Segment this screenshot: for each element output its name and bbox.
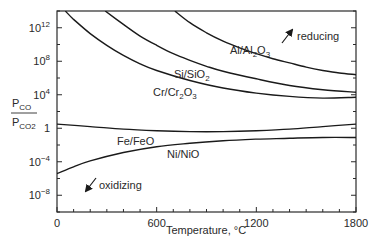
y-axis-title: PCO PCO2 [11,97,37,131]
svg-text:PCO: PCO [12,97,31,112]
label-cr-cr2o3: Cr/Cr2O3 [153,86,197,101]
arrow-up-right-icon [282,30,292,43]
curve-cr-cr2o3 [65,11,356,98]
x-tick-label: 1800 [344,217,368,229]
y-tick-label: 1012 [29,20,51,34]
chart: 060012001800 1012108104110−410−8 Al/Al2O… [0,0,377,246]
label-ni-nio: Ni/NiO [167,148,200,160]
reducing-annotation: reducing [282,30,339,43]
oxidizing-annotation: oxidizing [86,178,142,191]
y-tick-label: 1 [44,122,50,134]
x-tick-label: 0 [54,217,60,229]
svg-text:oxidizing: oxidizing [99,179,142,191]
y-axis-tick-labels: 1012108104110−410−8 [29,20,51,202]
svg-text:reducing: reducing [297,30,339,42]
y-tick-label: 104 [33,87,50,101]
curve-fe-feo [57,124,356,132]
x-tick-label: 600 [147,217,165,229]
y-tick-label: 10−4 [29,154,51,168]
y-tick-label: 108 [33,53,50,67]
label-fe-feo: Fe/FeO [117,135,155,147]
svg-text:PCO2: PCO2 [12,116,36,131]
y-tick-label: 10−8 [29,187,51,201]
arrow-down-left-icon [86,178,96,191]
curve-ni-nio [57,137,356,173]
x-axis-title: Temperature, °C [166,224,246,236]
x-tick-label: 1200 [244,217,268,229]
x-axis-ticks [57,207,356,212]
